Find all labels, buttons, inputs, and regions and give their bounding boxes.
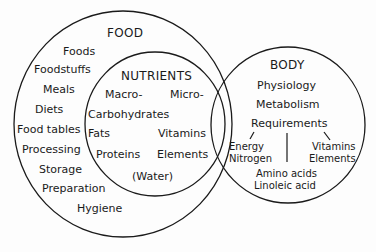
food-title: FOOD: [107, 26, 143, 40]
nutrient-item: Fats: [88, 127, 110, 140]
food-item: Processing: [22, 143, 81, 156]
body-title: BODY: [270, 58, 305, 72]
requirement-left: Nitrogen: [229, 153, 272, 164]
requirement-center: Amino acids: [256, 168, 317, 179]
food-item: Food tables: [17, 123, 81, 136]
micro-heading: Micro-: [170, 88, 204, 101]
food-item: Foods: [63, 45, 95, 58]
requirement-right: Vitamins: [312, 141, 356, 152]
food-item: Meals: [43, 83, 75, 96]
macro-heading: Macro-: [105, 88, 142, 101]
venn-diagram: FOOD Foods Foodstuffs Meals Diets Food t…: [0, 0, 376, 252]
body-item: Metabolism: [256, 98, 320, 111]
nutrient-item: Carbohydrates: [88, 108, 169, 121]
diagram-canvas: FOOD Foods Foodstuffs Meals Diets Food t…: [0, 0, 376, 252]
food-item: Preparation: [42, 182, 106, 195]
requirement-right: Elements: [309, 153, 356, 164]
connector-right: [324, 132, 330, 140]
nutrients-title: NUTRIENTS: [121, 69, 192, 83]
food-item: Hygiene: [77, 202, 123, 215]
nutrient-item: Proteins: [96, 148, 141, 161]
body-item: Requirements: [251, 117, 328, 130]
requirement-left: Energy: [229, 141, 264, 152]
food-item: Foodstuffs: [34, 63, 91, 76]
water-label: (Water): [132, 170, 173, 183]
food-item: Diets: [35, 103, 64, 116]
nutrient-item: Elements: [157, 148, 209, 161]
body-item: Physiology: [257, 79, 316, 92]
nutrient-item: Vitamins: [158, 127, 206, 140]
requirement-center: Linoleic acid: [254, 180, 316, 191]
food-item: Storage: [39, 163, 82, 176]
connector-left: [250, 132, 254, 139]
